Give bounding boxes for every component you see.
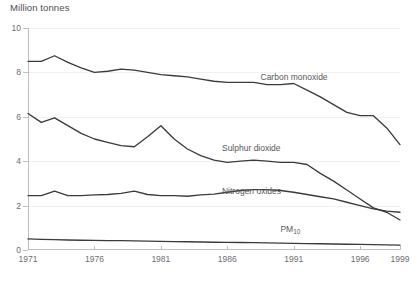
series-lines-group [28,28,400,250]
y-axis-tick [23,250,28,251]
x-axis-tick [400,246,401,250]
y-axis-label: 4 [16,156,21,166]
x-axis-label: 1971 [19,254,38,264]
plot-area: 0246810 Carbon monoxideSulphur dioxideNi… [28,28,400,250]
series-line-carbon-monoxide [28,56,400,145]
x-axis-label: 1996 [351,254,370,264]
series-line-nitrogen-oxides [28,190,400,213]
x-axis-label: 1976 [85,254,104,264]
x-axis-label: 1991 [284,254,303,264]
y-axis-label: 6 [16,112,21,122]
series-label-nitrogen-oxides: Nitrogen oxides [222,186,281,196]
y-axis-label: 2 [16,201,21,211]
series-label-sulphur-dioxide: Sulphur dioxide [222,143,281,153]
x-axis-label: 1981 [151,254,170,264]
x-axis-label: 1986 [218,254,237,264]
chart-title: Million tonnes [10,2,70,13]
pollutant-emissions-line-chart: Million tonnes 0246810 Carbon monoxideSu… [0,0,417,284]
y-axis-label: 8 [16,67,21,77]
x-axis-label: 1999 [391,254,410,264]
series-label-carbon-monoxide: Carbon monoxide [261,72,328,82]
series-label-pm10: PM10 [280,224,300,234]
y-axis-label: 10 [12,23,21,33]
series-line-pm10 [28,239,400,245]
series-line-sulphur-dioxide [28,113,400,220]
